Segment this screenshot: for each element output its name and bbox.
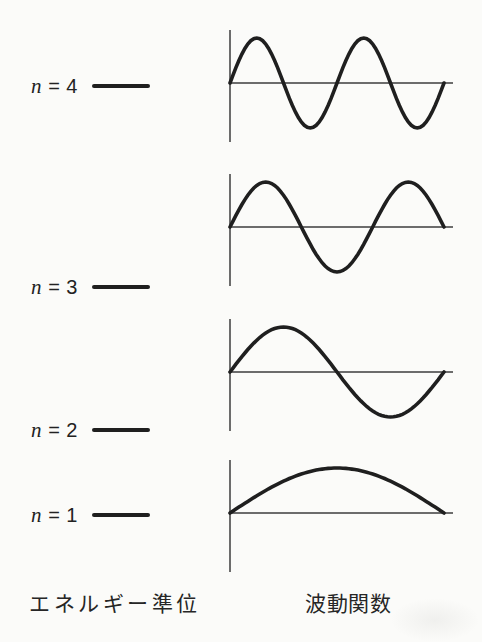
wavefunction-plots [0, 0, 482, 642]
wavefunction-n3 [230, 174, 453, 286]
wavefunction-n4 [230, 30, 453, 142]
particle-in-box-figure: n = 4n = 3n = 2n = 1 エネルギー準位 波動関数 [0, 0, 482, 642]
wave-curve-n1 [230, 468, 444, 513]
wavefunction-n2 [230, 319, 453, 431]
caption-wavefunctions: 波動関数 [268, 590, 428, 618]
caption-energy-levels: エネルギー準位 [20, 590, 210, 618]
wavefunction-n1 [230, 460, 453, 572]
